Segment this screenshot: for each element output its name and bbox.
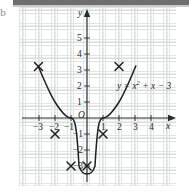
equation-annotation: y = x2 + x − 3	[117, 77, 171, 92]
equation-rhs: + x − 3	[142, 81, 171, 91]
equation-exponent: 2	[137, 79, 140, 86]
y-tick-label--3: −3	[73, 161, 83, 171]
x-tick-label-3: 3	[133, 122, 138, 132]
x-tick-label-2: 2	[117, 122, 122, 132]
data-point-cross	[115, 63, 123, 71]
y-axis-arrowhead	[84, 9, 90, 17]
x-tick-label-4: 4	[149, 122, 154, 132]
y-axis-name: y	[78, 8, 82, 18]
y-tick-label-3: 3	[77, 65, 82, 75]
x-tick-label--3: −3	[33, 122, 43, 132]
x-tick-label-1: 1	[101, 122, 106, 132]
origin-label: O	[78, 110, 85, 120]
x-tick-label--2: −2	[49, 122, 59, 132]
y-tick-label--2: −2	[73, 145, 83, 155]
y-tick-label-5: 5	[77, 33, 82, 43]
y-tick-label-4: 4	[77, 49, 82, 59]
x-axis-name: x	[166, 121, 170, 131]
equation-lhs: y = x	[117, 81, 137, 91]
y-tick-label-2: 2	[77, 81, 82, 91]
y-tick-label--1: −1	[73, 129, 83, 139]
plot-overlay	[0, 0, 189, 193]
graph-figure: b	[0, 0, 189, 193]
y-tick-label-1: 1	[77, 97, 82, 107]
data-point-cross	[35, 63, 43, 71]
